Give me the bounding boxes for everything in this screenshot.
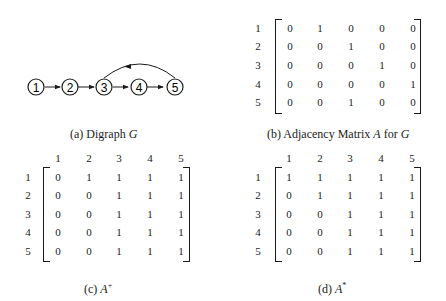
column-label: 4 xyxy=(375,152,387,164)
matrix-cell: 0 xyxy=(283,189,295,201)
matrix-cell: 1 xyxy=(344,208,356,220)
column-label: 1 xyxy=(283,152,295,164)
matrix-cell: 1 xyxy=(375,226,387,238)
column-label: 3 xyxy=(344,152,356,164)
row-label: 5 xyxy=(252,245,264,257)
matrix-cell: 1 xyxy=(375,245,387,257)
matrix-cell: 1 xyxy=(344,226,356,238)
matrix-cell: 1 xyxy=(375,208,387,220)
matrix-cell: 0 xyxy=(283,226,295,238)
matrix-cell: 1 xyxy=(344,245,356,257)
matrix-cell: 1 xyxy=(375,171,387,183)
right-bracket xyxy=(414,167,421,262)
matrix-cell: 0 xyxy=(283,245,295,257)
left-bracket xyxy=(275,167,282,262)
row-label: 2 xyxy=(252,189,264,201)
column-label: 2 xyxy=(314,152,326,164)
row-label: 4 xyxy=(252,226,264,238)
row-label: 3 xyxy=(252,208,264,220)
matrix-cell: 1 xyxy=(344,189,356,201)
matrix-cell: 1 xyxy=(344,171,356,183)
matrix-cell: 0 xyxy=(314,245,326,257)
row-label: 1 xyxy=(252,171,264,183)
matrix-cell: 1 xyxy=(283,171,295,183)
reflexive-transitive-closure-panel: 12345123451111101111001110011100111 (d) … xyxy=(0,0,446,301)
matrix-cell: 0 xyxy=(314,226,326,238)
matrix-cell: 0 xyxy=(314,208,326,220)
column-label: 5 xyxy=(406,152,418,164)
caption-d: (d) A* xyxy=(318,281,346,297)
matrix-cell: 0 xyxy=(283,208,295,220)
matrix-cell: 1 xyxy=(314,189,326,201)
matrix-cell: 1 xyxy=(375,189,387,201)
matrix-cell: 1 xyxy=(314,171,326,183)
